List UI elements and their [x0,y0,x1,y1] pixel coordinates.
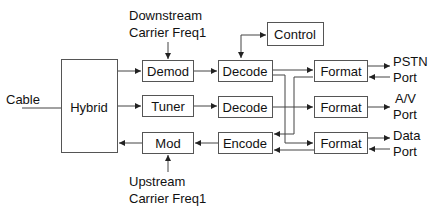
format1-to-encode-arrow [274,77,313,134]
av-label-line2: Port [393,107,417,122]
format-label-3: Format [320,136,362,151]
decode1-to-format3-arrow [273,75,313,143]
decode-label-2: Decode [223,100,268,115]
encode-label: Encode [223,136,267,151]
downstream-label-line1: Downstream [129,8,202,23]
encode-block: Encode [219,133,273,154]
decode-block-2: Decode [219,97,273,118]
demod-label: Demod [147,64,189,79]
demod-block: Demod [143,61,194,82]
decode-label-1: Decode [223,64,268,79]
downstream-label-line2: Carrier Freq1 [129,25,206,40]
data-label-line2: Port [393,144,417,159]
pstn-label-line2: Port [393,70,417,85]
format-label-2: Format [320,100,362,115]
mod-block: Mod [143,133,194,154]
block-diagram: Cable Hybrid Downstream Carrier Freq1 De… [0,0,442,216]
format-label-1: Format [320,64,362,79]
hybrid-label: Hybrid [70,100,108,115]
tuner-block: Tuner [143,96,194,117]
control-label: Control [274,27,316,42]
format-block-2: Format [315,97,368,118]
pstn-label-line1: PSTN [393,54,428,69]
tuner-label: Tuner [151,99,185,114]
upstream-label-line1: Upstream [129,174,185,189]
cable-label: Cable [6,92,40,107]
decode-block-1: Decode [219,61,273,82]
av-label-line1: A/V [395,91,416,106]
hybrid-block: Hybrid [62,60,118,153]
mod-label: Mod [155,136,180,151]
decode-control-arrow [241,35,266,58]
data-label-line1: Data [393,128,421,143]
control-block: Control [268,23,324,46]
format-block-1: Format [315,61,368,82]
format-block-3: Format [315,133,368,154]
upstream-label-line2: Carrier Freq1 [129,191,206,206]
